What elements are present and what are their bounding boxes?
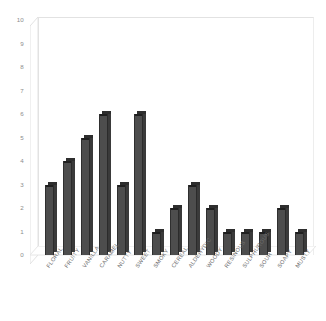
y-tick-label: 9 [2,41,24,47]
bar-front-face [45,185,54,256]
bar-side-face [72,158,75,252]
y-tick-label: 3 [2,182,24,188]
bar-chart: 109876543210 FLORALFRUITYVANILLACARAMELN… [0,0,326,321]
bar-front-face [81,138,90,256]
bar [223,232,232,256]
y-tick-label: 7 [2,88,24,94]
bar-side-face [215,205,218,252]
bar-top-edge [296,232,303,234]
bar-top-edge [224,232,231,234]
bar [170,208,179,255]
x-axis: FLORALFRUITYVANILLACARAMELNUTTYSWEETSMOK… [30,264,316,321]
y-tick-label: 5 [2,135,24,141]
bar-side-face [126,182,129,253]
bar-front-face [63,161,72,255]
y-axis: 109876543210 [0,0,32,321]
bar [81,138,90,256]
bar-front-face [188,185,197,256]
bar-front-face [170,208,179,255]
bar-top-edge [100,114,107,116]
bar-top-edge [207,208,214,210]
bar-side-face [286,205,289,252]
bar [99,114,108,255]
bar-front-face [134,114,143,255]
bar [152,232,161,256]
y-tick-label: 1 [2,229,24,235]
bar [134,114,143,255]
bar-top-edge [242,232,249,234]
bar [295,232,304,256]
bar-front-face [277,208,286,255]
bar-top-edge [46,185,53,187]
bar-top-edge [82,138,89,140]
bar [63,161,72,255]
bar-side-face [54,182,57,253]
bar-top-edge [153,232,160,234]
bar-front-face [223,232,232,256]
bar-front-face [295,232,304,256]
bar [277,208,286,255]
bar-side-face [179,205,182,252]
bar-top-edge [118,185,125,187]
bar [188,185,197,256]
y-tick-label: 0 [2,252,24,258]
bar-side-face [197,182,200,253]
bar-side-face [90,135,93,253]
bar-top-edge [64,161,71,163]
bars-layer [30,17,316,264]
bar-top-edge [135,114,142,116]
y-tick-label: 8 [2,64,24,70]
y-tick-label: 10 [2,17,24,23]
bar-top-edge [171,208,178,210]
bar-top-edge [278,208,285,210]
bar-top-edge [189,185,196,187]
bar-front-face [99,114,108,255]
bar-front-face [152,232,161,256]
y-tick-label: 4 [2,158,24,164]
y-tick-label: 2 [2,205,24,211]
bar [45,185,54,256]
y-tick-label: 6 [2,111,24,117]
bar-side-face [143,111,146,252]
bar-side-face [108,111,111,252]
